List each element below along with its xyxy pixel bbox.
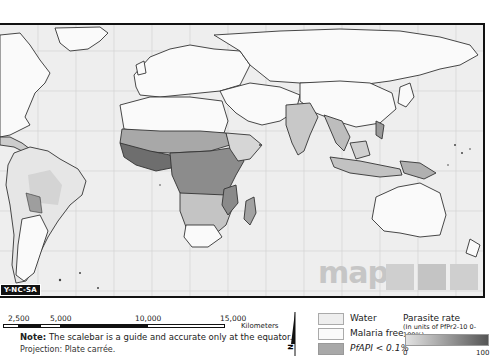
russia	[214, 29, 478, 85]
borneo	[350, 141, 370, 159]
parasite-rate-max: 100	[476, 349, 489, 357]
australia	[372, 183, 446, 237]
world-map	[0, 25, 485, 298]
license-badge: Y-NC-SA	[0, 284, 41, 296]
japan	[398, 83, 414, 107]
philippines	[376, 121, 384, 139]
scalebar-seg-2	[18, 324, 41, 328]
new-guinea	[400, 161, 436, 179]
uk	[136, 61, 146, 75]
scale-tick-10000: 10,000	[135, 314, 161, 323]
parasite-rate-min: 0	[403, 349, 407, 357]
legend-swatch-malaria-free	[318, 328, 344, 340]
parasite-rate-title: Parasite rate	[403, 313, 460, 323]
logo-tile-1	[386, 264, 414, 290]
note-label: Note:	[20, 332, 46, 342]
legend-label-pfapi: PfAPI < 0.1%	[350, 343, 409, 353]
scale-tick-5000: 5,000	[50, 314, 71, 323]
note-text: The scalebar is a guide and accurate onl…	[49, 332, 292, 342]
scalebar-seg-4	[60, 324, 148, 328]
scale-tick-2500: 2,500	[8, 314, 29, 323]
scalebar-seg-3	[40, 324, 61, 328]
india	[286, 103, 318, 155]
scalebar-note: Note: The scalebar is a guide and accura…	[20, 332, 292, 342]
south-africa	[184, 225, 222, 247]
logo-tile-2	[418, 264, 446, 290]
southern-cone	[16, 215, 48, 281]
scalebar-seg-5	[147, 324, 225, 328]
map-logo: map	[318, 258, 388, 288]
legend-swatch-pfapi	[318, 343, 344, 355]
madagascar	[244, 197, 256, 225]
legend-swatch-water	[318, 313, 344, 325]
legend-label-water: Water	[350, 313, 377, 323]
logo-tile-3	[450, 264, 478, 290]
map-frame	[0, 23, 485, 298]
north-america	[0, 33, 50, 137]
parasite-rate-gradient	[405, 334, 489, 346]
scalebar-unit: Kilometers	[241, 322, 278, 330]
scalebar-seg-1	[3, 324, 19, 328]
greenland	[55, 27, 108, 51]
projection-note: Projection: Plate carrée.	[20, 345, 115, 354]
north-arrow-icon	[290, 312, 300, 358]
indonesia	[330, 157, 402, 177]
new-zealand	[466, 239, 480, 257]
legend-label-malaria-free: Malaria free	[350, 328, 404, 338]
north-label: N	[287, 344, 295, 350]
